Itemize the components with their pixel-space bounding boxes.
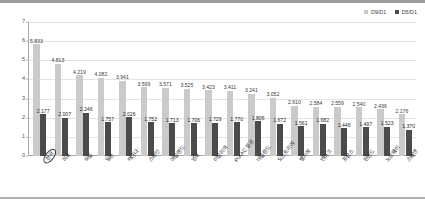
bar-d5-d1: 2.246 — [83, 113, 89, 156]
bar-value-label: 2.026 — [123, 112, 136, 117]
bar-d5-d1: 2.026 — [126, 117, 132, 156]
bar-d5-d1: 2.177 — [40, 114, 46, 156]
bar-group: 2.6101.561 — [287, 22, 309, 156]
x-axis-label-cell: 덴마크 — [309, 157, 331, 201]
bar-group: 3.0521.672 — [266, 22, 288, 156]
bar-group: 2.1761.370 — [395, 22, 417, 156]
bar-group: 3.5991.752 — [137, 22, 159, 156]
bar-value-label: 1.770 — [230, 117, 243, 122]
bar-d9-d1: 5.833 — [33, 44, 39, 156]
x-axis-label-cell: 스웨덴 — [395, 157, 417, 201]
bar-d9-d1: 2.559 — [334, 107, 340, 156]
bar-value-label: 1.682 — [316, 118, 329, 123]
bar-value-label: 3.241 — [245, 88, 258, 93]
x-axis-label-cell: PIAAC 평균 — [223, 157, 245, 201]
x-axis-label-cell: 이탈리아 — [201, 157, 223, 201]
bar-value-label: 1.706 — [187, 118, 200, 123]
bar-group: 2.5841.682 — [309, 22, 331, 156]
bar-group: 4.0821.757 — [94, 22, 116, 156]
x-axis-label-cell: 일본 — [94, 157, 116, 201]
bar-value-label: 2.176 — [396, 109, 409, 114]
bar-value-label: 1.561 — [295, 121, 308, 126]
bar-value-label: 2.540 — [353, 102, 366, 107]
x-axis-label-cell: 한국 — [29, 157, 51, 201]
bar-value-label: 3.941 — [116, 75, 129, 80]
bar-value-label: 1.806 — [252, 116, 265, 121]
bar-value-label: 1.757 — [101, 117, 114, 122]
legend-label-d9d1: D9/D1 — [371, 9, 386, 15]
plot-area: 01234567 5.8332.1774.8132.0074.2192.2464… — [16, 22, 416, 156]
bar-value-label: 1.672 — [273, 118, 286, 123]
legend-swatch-d5d1 — [395, 10, 399, 14]
x-axis-labels: 한국미국독일일본캐나다스페인아일랜드영국이탈리아PIAAC 평균네덜란드오스트리… — [29, 157, 416, 201]
bar-value-label: 1.497 — [359, 122, 372, 127]
bar-value-label: 2.584 — [310, 101, 323, 106]
x-axis-label-cell: 노르웨이 — [373, 157, 395, 201]
bar-value-label: 3.571 — [159, 82, 172, 87]
legend-item-d5d1: D5/D1 — [395, 9, 417, 15]
bar-d9-d1: 4.219 — [76, 75, 82, 156]
bar-group: 2.4361.523 — [373, 22, 395, 156]
bar-group: 3.4231.729 — [201, 22, 223, 156]
bar-group: 3.5251.706 — [180, 22, 202, 156]
bar-value-label: 1.713 — [166, 118, 179, 123]
bar-value-label: 1.446 — [338, 123, 351, 128]
bar-group: 2.5591.446 — [330, 22, 352, 156]
bar-group: 5.8332.177 — [29, 22, 51, 156]
x-axis-label-cell: 스페인 — [137, 157, 159, 201]
bar-group: 4.2192.246 — [72, 22, 94, 156]
x-axis-label-cell: 영국 — [180, 157, 202, 201]
x-axis-label-cell: 벨기에 — [287, 157, 309, 201]
bar-value-label: 3.423 — [202, 85, 215, 90]
bar-value-label: 4.813 — [52, 58, 65, 63]
bar-value-label: 3.599 — [138, 82, 151, 87]
bar-groups: 5.8332.1774.8132.0074.2192.2464.0821.757… — [29, 22, 416, 156]
bar-value-label: 5.833 — [30, 39, 43, 44]
legend-swatch-d9d1 — [364, 10, 368, 14]
legend-label-d5d1: D5/D1 — [402, 9, 417, 15]
bar-value-label: 3.525 — [181, 83, 194, 88]
x-axis-label-cell: 프랑스 — [330, 157, 352, 201]
bar-d9-d1: 2.436 — [377, 109, 383, 156]
x-axis-label-cell: 캐나다 — [115, 157, 137, 201]
bar-group: 4.8132.007 — [51, 22, 73, 156]
top-divider — [0, 0, 425, 3]
x-axis-label-cell: 오스트리아 — [266, 157, 288, 201]
x-axis-label-cell: 네덜란드 — [244, 157, 266, 201]
bar-group: 3.2411.806 — [244, 22, 266, 156]
bar-value-label: 1.752 — [144, 117, 157, 122]
bar-value-label: 2.436 — [374, 104, 387, 109]
chart-figure: D9/D1 D5/D1 01234567 5.8332.1774.8132.00… — [0, 0, 425, 201]
bar-value-label: 4.219 — [73, 70, 86, 75]
x-axis-label-cell: 미국 — [51, 157, 73, 201]
bar-value-label: 2.610 — [288, 100, 301, 105]
bar-value-label: 2.559 — [331, 101, 344, 106]
bar-value-label: 4.082 — [95, 72, 108, 77]
bar-value-label: 1.523 — [381, 121, 394, 126]
legend-item-d9d1: D9/D1 — [364, 9, 386, 15]
bar-value-label: 1.370 — [402, 124, 415, 129]
bar-value-label: 3.411 — [224, 85, 236, 90]
bar-value-label: 3.052 — [267, 92, 280, 97]
x-axis-label-cell: 핀란드 — [352, 157, 374, 201]
chart-legend: D9/D1 D5/D1 — [364, 9, 417, 15]
bar-d9-d1: 2.584 — [313, 107, 319, 156]
bar-value-label: 2.007 — [58, 112, 71, 117]
bar-d9-d1: 3.941 — [119, 81, 125, 156]
x-axis-label-cell: 아일랜드 — [158, 157, 180, 201]
bar-group: 3.5711.713 — [158, 22, 180, 156]
bar-group: 2.5401.497 — [352, 22, 374, 156]
bar-value-label: 1.729 — [209, 117, 222, 122]
bar-group: 3.4111.770 — [223, 22, 245, 156]
bar-d9-d1: 2.540 — [356, 107, 362, 156]
bar-d9-d1: 3.423 — [205, 90, 211, 156]
bar-d9-d1: 4.813 — [55, 64, 61, 156]
bar-value-label: 2.246 — [80, 107, 93, 112]
bar-group: 3.9412.026 — [115, 22, 137, 156]
x-axis-label-cell: 독일 — [72, 157, 94, 201]
bottom-divider — [0, 197, 425, 199]
y-axis: 01234567 — [16, 22, 28, 156]
bar-value-label: 2.177 — [37, 109, 50, 114]
